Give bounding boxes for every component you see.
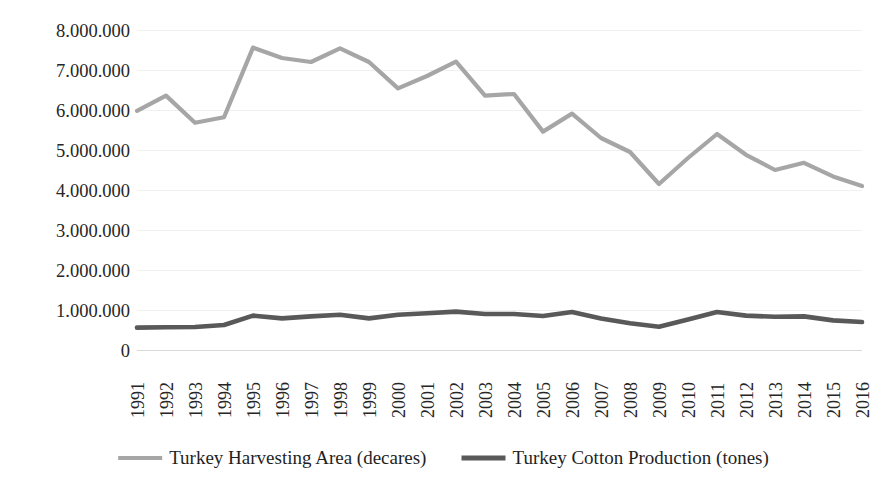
legend-item[interactable]: Turkey Cotton Production (tones) bbox=[462, 447, 769, 469]
x-axis-tick-label: 2000 bbox=[389, 382, 409, 418]
x-axis-tick-label: 2002 bbox=[447, 382, 467, 418]
x-axis-tick-label: 2008 bbox=[621, 382, 641, 418]
x-axis-tick-label: 2010 bbox=[679, 382, 699, 418]
x-axis-tick-label: 2006 bbox=[563, 382, 583, 418]
x-axis-tick-label: 2001 bbox=[418, 382, 438, 418]
x-axis-tick-label: 1996 bbox=[273, 382, 293, 418]
x-axis-tick-label: 1991 bbox=[128, 382, 148, 418]
x-axis-tick-label: 1992 bbox=[157, 382, 177, 418]
x-axis-tick-label: 1993 bbox=[186, 382, 206, 418]
x-axis-tick-label: 2005 bbox=[534, 382, 554, 418]
y-axis-tick-label: 8.000.000 bbox=[56, 21, 130, 41]
chart-container: 01.000.0002.000.0003.000.0004.000.0005.0… bbox=[0, 0, 887, 492]
series-group bbox=[137, 48, 862, 328]
gridlines-group bbox=[137, 30, 862, 350]
series-line-cotton-production bbox=[137, 312, 862, 328]
x-axis-tick-label: 2013 bbox=[766, 382, 786, 418]
x-axis-tick-label: 1999 bbox=[360, 382, 380, 418]
x-axis-tick-label: 1995 bbox=[244, 382, 264, 418]
y-axis-tick-label: 2.000.000 bbox=[56, 261, 130, 281]
x-axis-tick-label: 2007 bbox=[592, 382, 612, 418]
legend-item[interactable]: Turkey Harvesting Area (decares) bbox=[118, 447, 426, 469]
x-axis-tick-label: 1998 bbox=[331, 382, 351, 418]
y-axis-tick-label: 7.000.000 bbox=[56, 61, 130, 81]
series-line-harvesting-area bbox=[137, 48, 862, 186]
x-axis-tick-label: 2014 bbox=[795, 382, 815, 418]
x-axis-tick-label: 2009 bbox=[650, 382, 670, 418]
x-axis-labels-group: 1991199219931994199519961997199819992000… bbox=[128, 382, 873, 418]
y-axis-tick-label: 3.000.000 bbox=[56, 221, 130, 241]
legend-label: Turkey Harvesting Area (decares) bbox=[169, 447, 426, 469]
x-axis-tick-label: 1994 bbox=[215, 382, 235, 418]
chart-legend: Turkey Harvesting Area (decares)Turkey C… bbox=[118, 447, 769, 469]
x-axis-tick-label: 1997 bbox=[302, 382, 322, 418]
x-axis-tick-label: 2015 bbox=[824, 382, 844, 418]
x-axis-tick-label: 2012 bbox=[737, 382, 757, 418]
line-chart: 01.000.0002.000.0003.000.0004.000.0005.0… bbox=[0, 0, 887, 492]
y-axis-tick-label: 0 bbox=[121, 341, 130, 361]
y-axis-tick-label: 5.000.000 bbox=[56, 141, 130, 161]
x-axis-tick-label: 2004 bbox=[505, 382, 525, 418]
x-axis-tick-label: 2003 bbox=[476, 382, 496, 418]
x-axis-tick-label: 2011 bbox=[708, 383, 728, 418]
y-axis-labels-group: 01.000.0002.000.0003.000.0004.000.0005.0… bbox=[56, 21, 130, 361]
legend-label: Turkey Cotton Production (tones) bbox=[513, 447, 769, 469]
x-axis-tick-label: 2016 bbox=[853, 382, 873, 418]
y-axis-tick-label: 1.000.000 bbox=[56, 301, 130, 321]
y-axis-tick-label: 6.000.000 bbox=[56, 101, 130, 121]
y-axis-tick-label: 4.000.000 bbox=[56, 181, 130, 201]
